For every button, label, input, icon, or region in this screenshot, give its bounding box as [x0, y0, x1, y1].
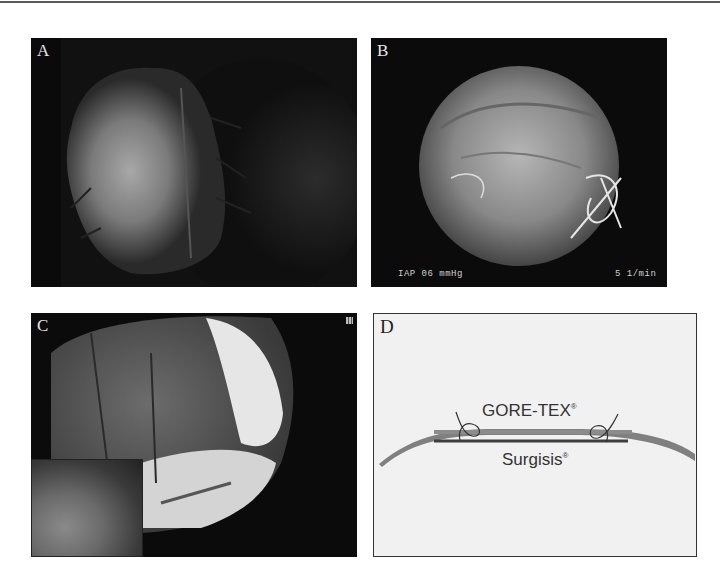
suture-knot-right-icon	[590, 414, 618, 442]
panel-a-label: A	[37, 41, 49, 61]
top-rule	[0, 1, 720, 3]
panel-a: A	[31, 38, 357, 287]
panel-c-label: C	[37, 316, 48, 336]
gore-tex-label: GORE-TEX®	[482, 401, 577, 421]
panel-c-inset	[31, 459, 143, 557]
mesh-diagram	[374, 314, 695, 555]
flow-rate-readout: 5 1/min	[615, 269, 656, 279]
panel-d-label: D	[380, 316, 394, 338]
panel-b-photo	[371, 38, 667, 287]
panel-b-label: B	[377, 41, 388, 61]
panel-b: B IAP 06 mmHg 5 1/min	[371, 38, 667, 287]
panel-d-diagram: D GORE-TEX® Surgisis®	[373, 313, 697, 557]
iap-pressure-readout: IAP 06 mmHg	[398, 269, 463, 279]
panel-c: C	[31, 313, 357, 557]
scope-grid-icon	[346, 317, 353, 324]
surgisis-label: Surgisis®	[502, 450, 568, 470]
panel-a-photo	[31, 38, 357, 287]
